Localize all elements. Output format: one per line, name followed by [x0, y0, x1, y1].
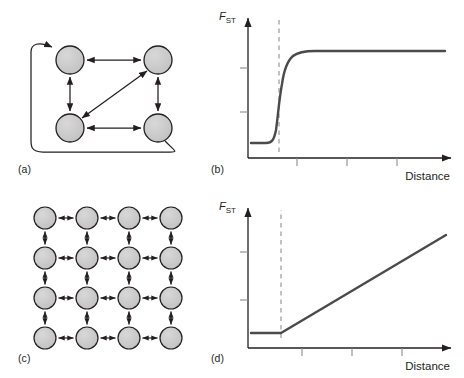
population-node — [76, 327, 98, 349]
population-node — [34, 327, 56, 349]
population-node — [160, 287, 182, 309]
panel-label-c: (c) — [18, 352, 31, 364]
population-node — [160, 327, 182, 349]
lattice-edges — [45, 218, 171, 338]
population-node — [34, 287, 56, 309]
population-node — [118, 327, 140, 349]
panel-b-fst-chart: FST Distance — [205, 0, 464, 190]
panel-label-a: (a) — [18, 163, 31, 175]
population-node — [118, 247, 140, 269]
lattice-nodes — [34, 207, 182, 349]
island-model-svg — [0, 0, 205, 190]
fst-chart-d-svg: FST Distance — [205, 190, 464, 378]
population-node — [160, 247, 182, 269]
panel-a-island-model — [0, 0, 205, 190]
panel-c-stepping-stone — [0, 190, 205, 378]
y-axis-label-b: FST — [219, 10, 236, 25]
population-node — [76, 207, 98, 229]
stepping-stone-svg — [0, 190, 205, 378]
population-node — [76, 287, 98, 309]
population-node — [144, 46, 172, 74]
x-axis-label-d: Distance — [405, 360, 450, 372]
panel-label-d: (d) — [211, 352, 224, 364]
y-axis-label-d: FST — [219, 200, 236, 215]
x-axis-label-b: Distance — [405, 170, 450, 182]
population-node — [144, 114, 172, 142]
edge-n3-n2-diagonal — [82, 71, 147, 118]
population-node — [34, 207, 56, 229]
population-node — [160, 207, 182, 229]
population-node — [34, 247, 56, 269]
population-node — [118, 287, 140, 309]
fst-curve-b — [251, 51, 445, 143]
panel-label-b: (b) — [211, 163, 224, 175]
fst-curve-d — [251, 235, 446, 333]
population-node — [118, 207, 140, 229]
population-node — [76, 247, 98, 269]
fst-chart-b-svg: FST Distance — [205, 0, 464, 190]
population-node — [56, 114, 84, 142]
population-node — [56, 46, 84, 74]
figure-root: (a) FST — [0, 0, 464, 378]
panel-d-fst-chart: FST Distance — [205, 190, 464, 378]
